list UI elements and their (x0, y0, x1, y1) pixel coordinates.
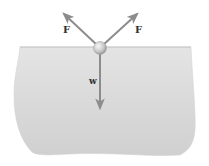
force-label-right: F (135, 24, 142, 35)
free-body-diagram: F F w (0, 0, 209, 166)
ball (94, 42, 107, 55)
force-label-left: F (63, 24, 70, 35)
weight-label: w (88, 76, 97, 86)
liquid-surface-body (14, 47, 195, 155)
force-arrow-right (103, 14, 137, 45)
